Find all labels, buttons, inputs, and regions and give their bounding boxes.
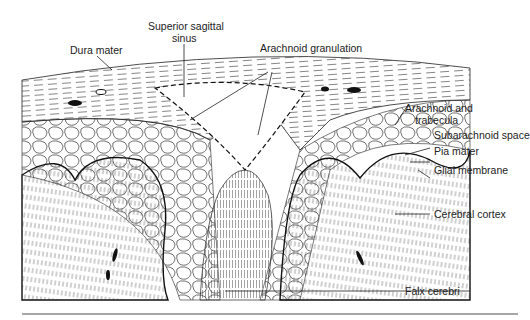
label-superior-sagittal-sinus-line1: Superior sagittal: [148, 20, 224, 32]
cerebral-hemisphere-left: [22, 158, 168, 301]
label-cerebral-cortex: Cerebral cortex: [434, 208, 506, 220]
label-arachnoid-granulation: Arachnoid granulation: [260, 42, 362, 54]
label-arachnoid-and-trabecula-line1: Arachnoid and: [405, 102, 473, 114]
label-pia-mater: Pia mater: [434, 145, 479, 157]
label-arachnoid-and-trabecula-line2: trabecula: [415, 114, 458, 126]
label-subarachnoid-space: Subarachnoid space: [434, 129, 530, 141]
label-superior-sagittal-sinus-line2: sinus: [172, 32, 197, 44]
label-falx-cerebri: Falx cerebri: [405, 285, 460, 297]
label-dura-mater: Dura mater: [70, 44, 123, 56]
label-glial-membrane: Glial membrane: [434, 164, 508, 176]
